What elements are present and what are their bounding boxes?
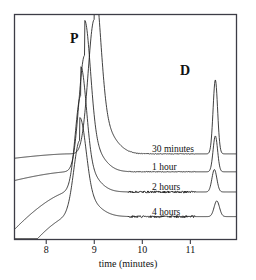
trace-label-2-hours: 2 hours [152,183,180,193]
x-axis-title: time (minutes) [0,259,256,269]
chromatogram-plot [0,0,256,280]
x-tick-label: 8 [44,245,49,255]
peak-label-p: P [70,32,79,46]
chromatogram-figure: P D 30 minutes 1 hour 2 hours 4 hours 89… [0,0,256,280]
peak-label-d: D [180,64,190,78]
trace-label-30-minutes: 30 minutes [152,145,194,155]
trace-label-4-hours: 4 hours [152,208,180,218]
x-tick-label: 11 [186,245,196,255]
x-tick-label: 9 [92,245,97,255]
plot-frame [15,15,237,240]
x-tick-label: 10 [137,245,147,255]
trace-label-1-hour: 1 hour [152,163,177,173]
